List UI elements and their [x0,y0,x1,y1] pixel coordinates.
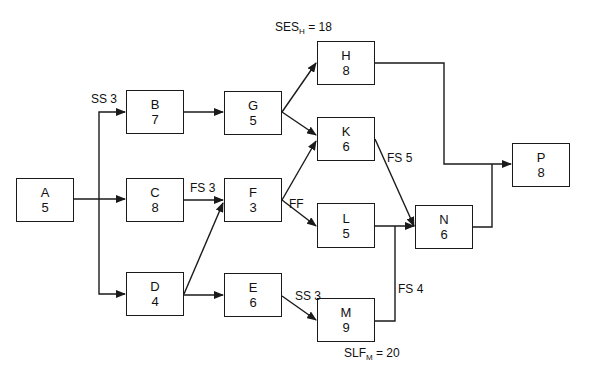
node-l: L 5 [317,203,375,248]
label-ss3-a-b: SS 3 [91,92,117,106]
node-b: B 7 [126,90,184,134]
node-m-duration: 9 [342,320,349,335]
node-c: C 8 [126,178,184,222]
node-b-duration: 7 [151,112,158,127]
node-f: F 3 [224,178,282,222]
label-ss3-e-m: SS 3 [295,289,321,303]
ses-h-prefix: SES [275,20,299,34]
edge-m-n [375,226,395,321]
node-g: G 5 [224,91,282,135]
edge-a-d [99,199,125,294]
node-l-id: L [342,211,349,226]
node-n: N 6 [415,205,473,249]
node-h: H 8 [317,41,375,85]
ses-h-value: = 18 [305,20,332,34]
node-e-id: E [249,280,258,295]
node-p-duration: 8 [537,165,544,180]
edge-g-h [282,63,316,112]
label-ff-f-l: FF [289,197,304,211]
label-fs4-m-n: FS 4 [398,282,423,296]
node-g-id: G [248,98,258,113]
slf-m-prefix: SLF [344,346,366,360]
node-k-id: K [342,124,351,139]
node-c-id: C [150,185,159,200]
edge-g-k [282,112,316,135]
node-a-duration: 5 [41,200,48,215]
precedence-network-diagram: A 5 B 7 C 8 D 4 G 5 F 3 E 6 H 8 K 6 L 5 … [0,0,601,379]
node-f-duration: 3 [249,200,256,215]
node-m: M 9 [317,298,375,342]
node-p: P 8 [512,143,570,187]
node-b-id: B [151,97,160,112]
edge-a-b [99,112,125,199]
node-a-id: A [41,185,50,200]
edge-h-p [375,63,511,164]
node-a: A 5 [16,178,74,222]
edges-layer [0,0,601,379]
label-fs5-k-n: FS 5 [387,151,412,165]
node-n-duration: 6 [440,227,447,242]
node-m-id: M [341,305,352,320]
node-d: D 4 [126,272,184,316]
node-p-id: P [537,150,546,165]
node-g-duration: 5 [249,113,256,128]
node-k: K 6 [317,117,375,161]
node-e-duration: 6 [249,295,256,310]
node-h-duration: 8 [342,63,349,78]
slf-m-subscript: M [366,353,373,362]
node-d-id: D [150,279,159,294]
label-ses-h: SESH = 18 [275,20,332,36]
edge-d-f [184,203,223,294]
edge-n-p [473,164,492,227]
node-h-id: H [341,48,350,63]
slf-m-value: = 20 [373,346,400,360]
edge-f-k [282,141,316,200]
label-slf-m: SLFM = 20 [344,346,400,362]
node-k-duration: 6 [342,139,349,154]
node-f-id: F [249,185,257,200]
node-e: E 6 [224,273,282,317]
node-d-duration: 4 [151,294,158,309]
node-c-duration: 8 [151,200,158,215]
label-fs3-c-f: FS 3 [190,181,215,195]
node-l-duration: 5 [342,226,349,241]
node-n-id: N [439,212,448,227]
